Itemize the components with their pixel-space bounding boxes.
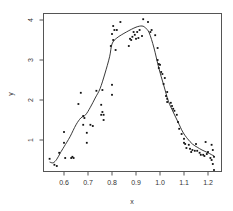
data-point — [96, 90, 98, 92]
x-tick-label: 0.6 — [59, 179, 69, 186]
data-point — [151, 29, 153, 31]
data-point — [211, 159, 213, 161]
data-point — [166, 91, 168, 93]
smooth-fit-curve — [50, 26, 214, 163]
data-point — [211, 144, 213, 146]
data-point — [135, 38, 137, 40]
data-point — [120, 21, 122, 23]
y-tick-label: 1 — [27, 138, 34, 142]
data-point — [111, 33, 113, 35]
data-point — [134, 34, 136, 36]
x-tick-label: 0.9 — [131, 179, 141, 186]
data-point — [63, 142, 65, 144]
data-point — [112, 39, 114, 41]
data-point — [205, 141, 207, 143]
data-point — [200, 154, 202, 156]
data-point — [58, 152, 60, 154]
data-point — [172, 108, 174, 110]
data-point — [196, 150, 198, 152]
data-point — [158, 67, 160, 69]
data-point — [171, 105, 173, 107]
data-point — [166, 98, 168, 100]
data-point — [176, 114, 178, 116]
data-point — [170, 102, 172, 104]
data-point — [86, 142, 88, 144]
data-point — [188, 144, 190, 146]
x-axis-label: x — [130, 198, 134, 205]
data-point — [163, 83, 165, 85]
data-point — [115, 49, 117, 51]
data-point — [150, 31, 152, 33]
data-point — [166, 101, 168, 103]
data-point — [212, 163, 214, 165]
data-point — [73, 157, 75, 159]
data-point — [189, 148, 191, 150]
data-point — [206, 153, 208, 155]
x-tick-label: 1.1 — [179, 179, 189, 186]
data-point — [199, 152, 201, 154]
data-point — [154, 34, 156, 36]
data-point — [210, 157, 212, 159]
data-point — [103, 119, 105, 121]
data-point — [128, 45, 130, 47]
scatter-plot-with-smooth-curve: 0.60.70.80.91.01.11.2 1234 x y — [0, 0, 233, 211]
data-point — [133, 31, 135, 33]
data-point — [114, 29, 116, 31]
data-point — [84, 117, 86, 119]
x-tick-label: 1.0 — [155, 179, 165, 186]
x-tick-label: 1.2 — [203, 179, 213, 186]
data-point — [100, 114, 102, 116]
data-point — [80, 92, 82, 94]
data-point — [64, 157, 66, 159]
data-point — [157, 47, 159, 49]
data-point — [157, 59, 159, 61]
data-point — [100, 104, 102, 106]
data-point — [174, 110, 176, 112]
data-point — [190, 151, 192, 153]
data-point — [82, 115, 84, 117]
data-point — [141, 35, 143, 37]
data-point — [165, 95, 167, 97]
data-point — [82, 124, 84, 126]
data-point — [159, 64, 161, 66]
data-point — [186, 147, 188, 149]
data-point — [110, 45, 112, 47]
data-point — [136, 31, 138, 33]
data-point — [111, 94, 113, 96]
data-point — [147, 21, 149, 23]
data-point — [132, 36, 134, 38]
data-point — [111, 84, 113, 86]
data-point — [207, 151, 209, 153]
data-point — [184, 143, 186, 145]
data-point — [212, 149, 214, 151]
data-point — [192, 149, 194, 151]
data-point — [139, 29, 141, 31]
y-tick-label: 2 — [27, 98, 34, 102]
data-point — [49, 158, 51, 160]
data-point — [181, 133, 183, 135]
data-point — [54, 164, 56, 166]
data-point — [213, 156, 215, 158]
data-point — [112, 25, 114, 27]
data-point — [130, 39, 132, 41]
y-axis: 1234 — [27, 18, 44, 142]
data-point — [195, 143, 197, 145]
data-point — [102, 111, 104, 113]
data-point — [213, 169, 215, 171]
data-points — [49, 18, 215, 171]
data-point — [56, 165, 58, 167]
data-point — [177, 121, 179, 123]
x-tick-label: 0.8 — [107, 179, 117, 186]
data-point — [63, 131, 65, 133]
data-point — [78, 103, 80, 105]
data-point — [138, 37, 140, 39]
data-point — [86, 132, 88, 134]
data-point — [204, 155, 206, 157]
x-axis: 0.60.70.80.91.01.11.2 — [59, 172, 213, 187]
data-point — [178, 128, 180, 130]
y-axis-label: y — [7, 92, 15, 96]
data-point — [102, 89, 104, 91]
data-point — [160, 71, 162, 73]
data-point — [90, 124, 92, 126]
x-tick-label: 0.7 — [83, 179, 93, 186]
